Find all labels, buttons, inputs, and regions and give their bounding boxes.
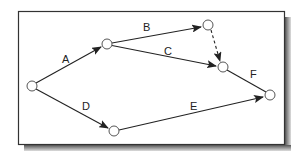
node-6 (109, 126, 119, 136)
label-a: A (62, 53, 70, 65)
label-e: E (190, 100, 197, 112)
node-2 (102, 39, 112, 49)
node-4 (218, 62, 228, 72)
label-c: C (164, 45, 172, 57)
label-d: D (82, 100, 90, 112)
diagram-frame (19, 12, 285, 145)
label-b: B (143, 21, 150, 33)
node-1 (27, 81, 37, 91)
label-f: F (250, 68, 257, 80)
node-3 (203, 20, 213, 30)
node-5 (265, 90, 275, 100)
network-diagram: A B C D E F (0, 0, 298, 157)
